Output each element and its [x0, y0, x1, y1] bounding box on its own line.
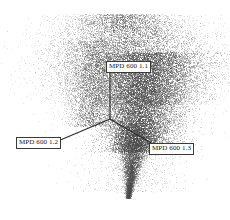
scatter-plot-figure: MPD 600 1.1 MPD 600 1.2 MPD 600 1.3 [0, 0, 230, 220]
point-cloud-canvas [0, 0, 230, 220]
axis-label-mpd-600-1-2: MPD 600 1.2 [16, 137, 61, 149]
axis-label-mpd-600-1-1: MPD 600 1.1 [106, 61, 151, 73]
axis-label-mpd-600-1-3: MPD 600 1.3 [149, 143, 194, 155]
